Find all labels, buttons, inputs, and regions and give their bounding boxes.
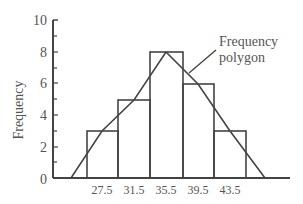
y-tick-label: 0	[40, 172, 47, 187]
bar-27-5	[87, 131, 118, 178]
y-tick-label: 10	[33, 13, 47, 28]
bar-35-5	[150, 52, 183, 178]
histogram-bars	[87, 52, 246, 178]
y-axis-title: Frequency	[11, 80, 26, 139]
x-tick-label: 35.5	[156, 183, 177, 197]
x-tick-label: 39.5	[188, 183, 209, 197]
y-tick-label: 2	[40, 140, 47, 155]
annotation-line2: polygon	[219, 50, 265, 65]
x-tick-label: 43.5	[220, 183, 241, 197]
bar-39-5	[183, 84, 214, 178]
y-tick-label: 4	[40, 108, 47, 123]
y-tick-label: 6	[40, 76, 47, 91]
y-tick-label: 8	[40, 45, 47, 60]
annotation-line1: Frequency	[219, 34, 278, 49]
x-tick-label: 31.5	[124, 183, 145, 197]
x-tick-label: 27.5	[92, 183, 113, 197]
frequency-polygon	[71, 52, 265, 178]
bar-43-5	[214, 131, 246, 178]
annotation-pointer	[189, 50, 216, 73]
frequency-chart: 10 8 6 4 2 0 Frequency Frequency polygon…	[0, 0, 303, 204]
